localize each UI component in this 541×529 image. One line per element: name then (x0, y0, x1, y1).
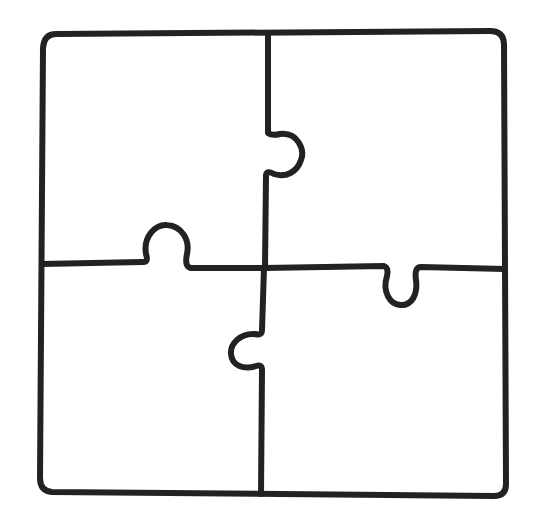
vertical-seam-top (265, 33, 302, 268)
puzzle-diagram (0, 0, 541, 529)
vertical-seam-bottom (231, 268, 264, 494)
horizontal-seam-left (42, 225, 264, 268)
puzzle-svg (0, 0, 541, 529)
horizontal-seam-right (264, 266, 505, 305)
